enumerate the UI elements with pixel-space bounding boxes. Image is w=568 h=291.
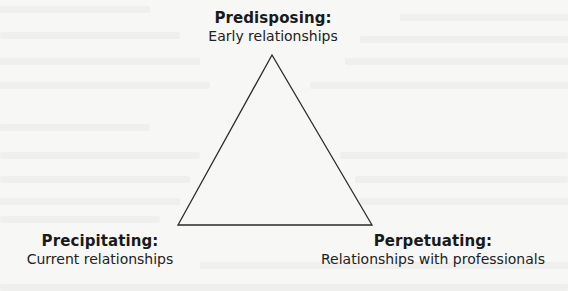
node-precipitating-title: Precipitating: — [27, 232, 174, 250]
node-precipitating-subtitle: Current relationships — [27, 250, 174, 269]
triangle-shape — [178, 55, 372, 225]
node-perpetuating: Perpetuating: Relationships with profess… — [321, 232, 545, 269]
node-precipitating: Precipitating: Current relationships — [27, 232, 174, 269]
node-perpetuating-subtitle: Relationships with professionals — [321, 250, 545, 269]
node-predisposing-subtitle: Early relationships — [208, 27, 337, 46]
node-perpetuating-title: Perpetuating: — [321, 232, 545, 250]
node-predisposing: Predisposing: Early relationships — [208, 9, 337, 46]
node-predisposing-title: Predisposing: — [208, 9, 337, 27]
